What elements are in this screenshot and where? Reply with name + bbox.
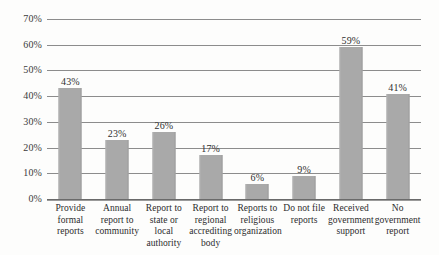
plot-area: 0%10%20%30%40%50%60%70% 43%23%26%17%6%9%…	[47, 19, 421, 199]
bar[interactable]	[339, 47, 362, 199]
y-axis-tick-label: 60%	[23, 39, 42, 50]
y-axis-tick-label: 70%	[23, 13, 42, 24]
x-axis-category-label: Reports to religious organization	[234, 203, 281, 238]
bar-slot: 9%	[281, 19, 328, 199]
x-axis-category-label: Report to regional accrediting body	[187, 203, 234, 249]
bar-slot: 59%	[328, 19, 375, 199]
bar-chart: 0%10%20%30%40%50%60%70% 43%23%26%17%6%9%…	[0, 0, 439, 255]
x-axis-category-label: Provide formal reports	[47, 203, 94, 238]
x-axis-category-label: Report to state or local authority	[141, 203, 188, 249]
x-axis-category-label: Do not file reports	[281, 203, 328, 226]
axis-baseline	[47, 199, 421, 201]
bar-value-label: 59%	[342, 35, 361, 46]
bar[interactable]	[199, 155, 222, 199]
bar[interactable]	[59, 88, 82, 199]
x-axis-category-label: Received government support	[328, 203, 375, 238]
bar[interactable]	[386, 94, 409, 199]
y-axis-tick-label: 0%	[28, 193, 42, 204]
bar-value-label: 26%	[155, 120, 174, 131]
y-axis-tick-label: 10%	[23, 168, 42, 179]
x-axis-labels: Provide formal reportsAnnual report to c…	[47, 203, 421, 255]
y-axis-tick-label: 30%	[23, 116, 42, 127]
bar-slot: 41%	[374, 19, 421, 199]
bars-group: 43%23%26%17%6%9%59%41%	[47, 19, 421, 199]
bar-value-label: 17%	[201, 143, 220, 154]
y-axis-tick-label: 20%	[23, 142, 42, 153]
bar[interactable]	[152, 132, 175, 199]
bar-value-label: 9%	[297, 164, 311, 175]
bar[interactable]	[106, 140, 129, 199]
bar[interactable]	[293, 176, 316, 199]
bar-slot: 23%	[94, 19, 141, 199]
bar-value-label: 6%	[251, 172, 265, 183]
bar-value-label: 41%	[388, 82, 407, 93]
bar-slot: 17%	[187, 19, 234, 199]
y-axis-tick-label: 40%	[23, 90, 42, 101]
bar-slot: 26%	[141, 19, 188, 199]
y-axis-tick-label: 50%	[23, 65, 42, 76]
x-axis-category-label: No government report	[374, 203, 421, 238]
x-axis-category-label: Annual report to community	[94, 203, 141, 238]
bar-value-label: 23%	[108, 128, 127, 139]
bar-slot: 6%	[234, 19, 281, 199]
bar-slot: 43%	[47, 19, 94, 199]
bar-value-label: 43%	[61, 76, 80, 87]
bar[interactable]	[246, 184, 269, 199]
